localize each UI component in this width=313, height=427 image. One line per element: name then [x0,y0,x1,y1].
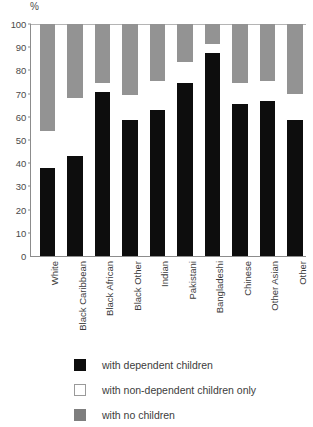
legend-swatch-black [74,359,86,371]
bar-group [260,24,276,256]
y-axis-tick-mark [28,209,31,210]
bar-segment [150,24,166,81]
y-axis-tick-mark [28,93,31,94]
stacked-bar [232,24,248,256]
bar-group [95,24,111,256]
bar-segment [232,104,248,256]
legend-item: with dependent children [74,352,309,377]
y-axis-tick-mark [28,47,31,48]
stacked-bar [287,24,303,256]
bar-segment [95,92,111,256]
bar-segment [205,53,221,256]
bar-segment [177,24,193,62]
bar-segment [122,120,138,256]
bar-segment [40,131,56,168]
x-axis-label: Black Other [132,261,143,311]
bar-segment [67,98,83,156]
y-axis-tick-label: 0 [21,251,31,262]
bar-segment [177,62,193,83]
y-axis-tick-mark [28,70,31,71]
stacked-bar [67,24,83,256]
legend-item: with no children [74,402,309,427]
bar-segment [95,24,111,83]
chart-legend: with dependent childrenwith non-dependen… [74,352,309,427]
bar-segment [40,24,56,131]
bar-group [177,24,193,256]
legend-label: with no children [102,409,175,421]
y-axis-tick-mark [28,24,31,25]
bar-segment [260,24,276,81]
stacked-bar [150,24,166,256]
bar-segment [122,95,138,121]
bar-segment [287,24,303,94]
bar-segment [260,101,276,256]
bar-group [150,24,166,256]
bar-segment [95,83,111,92]
bar-segment [232,83,248,104]
bar-segment [205,24,221,44]
legend-swatch-white [74,384,86,396]
bar-segment [150,110,166,256]
stacked-bar [260,24,276,256]
stacked-bar [177,24,193,256]
bar-group [122,24,138,256]
x-axis-label: Indian [159,261,170,287]
stacked-bar [205,24,221,256]
bar-segment [232,24,248,83]
bar-segment [260,81,276,101]
x-axis-label: Pakistani [187,261,198,300]
x-axis-label: Other [297,261,308,285]
stacked-bar [95,24,111,256]
bar-segment [287,120,303,256]
bar-group [40,24,56,256]
x-axis-label: Chinese [242,261,253,296]
y-axis-tick-mark [28,232,31,233]
stacked-bar-chart: % 0102030405060708090100 WhiteBlack Cari… [0,0,313,427]
bar-group [67,24,83,256]
legend-item: with non-dependent children only [74,377,309,402]
bar-group [232,24,248,256]
bar-segment [205,44,221,53]
y-axis-tick-mark [28,186,31,187]
y-axis-tick-mark [28,116,31,117]
legend-swatch-gray [74,409,86,421]
bar-group [287,24,303,256]
bar-segment [287,94,303,121]
bar-segment [67,156,83,256]
y-axis-unit-label: % [30,1,39,12]
stacked-bar [122,24,138,256]
bar-series-container [32,24,306,256]
bar-group [205,24,221,256]
x-axis-label: Other Asian [269,261,280,311]
legend-label: with dependent children [102,359,213,371]
x-axis-label: Bangladeshi [214,261,225,313]
bar-segment [67,24,83,98]
x-axis-label: Black African [104,261,115,316]
y-axis-tick-mark [28,140,31,141]
plot-area: 0102030405060708090100 [30,24,306,257]
x-axis-label: Black Caribbean [77,261,88,331]
stacked-bar [40,24,56,256]
legend-label: with non-dependent children only [102,384,256,396]
bar-segment [122,24,138,95]
bar-segment [177,83,193,256]
bar-segment [40,168,56,256]
x-axis-label: White [49,261,60,285]
y-axis-tick-mark [28,163,31,164]
bar-segment [150,81,166,110]
